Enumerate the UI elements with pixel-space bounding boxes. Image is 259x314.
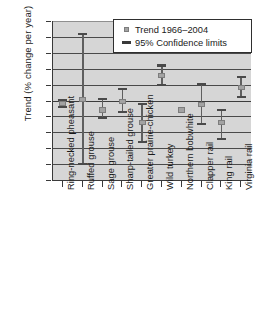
y-axis-tick-mark [46, 180, 51, 181]
confidence-upper-cap [217, 109, 226, 111]
trend-marker [158, 73, 165, 78]
y-axis-tick-mark [46, 37, 51, 38]
legend-label-trend: Trend 1966–2004 [135, 25, 208, 35]
confidence-lower-cap [197, 123, 206, 125]
y-axis-title: Trend (% change per year) [22, 0, 33, 139]
x-axis-tick-label: Ring-necked pheasant [66, 96, 76, 190]
x-axis-tick-label: Wild turkey [165, 143, 175, 190]
confidence-upper-cap [98, 98, 107, 100]
y-axis-tick-mark [46, 148, 51, 149]
trend-marker [99, 107, 106, 112]
trend-marker [79, 97, 86, 102]
confidence-lower-cap [237, 96, 246, 98]
trend-marker [119, 99, 126, 104]
x-axis-tick-mark [82, 180, 83, 187]
legend-label-confidence: 95% Confidence limits [135, 38, 227, 48]
confidence-upper-cap [237, 76, 246, 78]
confidence-upper-cap [118, 88, 127, 90]
x-axis-tick-label: Sage grouse [106, 137, 116, 190]
x-axis-tick-mark [161, 180, 162, 187]
trend-marker [198, 102, 205, 107]
confidence-lower-cap [98, 117, 107, 119]
confidence-upper-cap [157, 64, 166, 66]
trend-chart-figure: Trend (% change per year) 2520151050−5−1… [0, 0, 259, 314]
x-axis-tick-mark [201, 180, 202, 187]
trend-marker [218, 120, 225, 125]
y-axis-tick-mark [46, 132, 51, 133]
legend-item-trend: Trend 1966–2004 [118, 23, 247, 36]
y-axis-tick-mark [46, 116, 51, 117]
x-axis-tick-label: Clapper rail [205, 142, 215, 190]
x-axis-tick-mark [181, 180, 182, 187]
legend-item-confidence: 95% Confidence limits [118, 36, 247, 49]
confidence-upper-cap [197, 83, 206, 85]
y-axis-tick-mark [46, 164, 51, 165]
x-axis-tick-label: Virginia rail [244, 144, 254, 190]
x-axis-tick-mark [102, 180, 103, 187]
x-axis-tick-mark [62, 180, 63, 187]
x-axis-tick-label: Northern bobwhite [185, 113, 195, 190]
confidence-line-icon [118, 41, 135, 43]
y-axis-tick-mark [46, 69, 51, 70]
y-axis-tick-mark [46, 101, 51, 102]
confidence-lower-cap [157, 84, 166, 86]
x-axis-tick-label: Ruffed grouse [86, 131, 96, 190]
trend-marker-icon [118, 27, 135, 33]
x-axis-tick-mark [141, 180, 142, 187]
x-axis-tick-label: Sharp-tailed grouse [125, 108, 135, 190]
y-axis-tick-mark [46, 21, 51, 22]
x-axis-tick-mark [220, 180, 221, 187]
y-axis-tick-mark [46, 85, 51, 86]
x-axis-tick-label: King rail [224, 156, 234, 190]
confidence-lower-cap [217, 138, 226, 140]
x-axis-tick-label: Greater prairie-chicken [145, 94, 155, 190]
trend-marker [238, 85, 245, 90]
x-axis-tick-mark [240, 180, 241, 187]
chart-legend: Trend 1966–2004 95% Confidence limits [113, 19, 252, 53]
x-axis-tick-mark [121, 180, 122, 187]
y-axis-tick-mark [46, 53, 51, 54]
trend-marker [178, 107, 185, 112]
confidence-upper-cap [78, 33, 87, 35]
